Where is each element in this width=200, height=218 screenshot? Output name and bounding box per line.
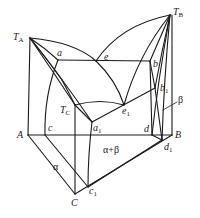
label-d: d — [144, 123, 150, 134]
label-A: A — [16, 129, 24, 140]
line-TC-a1 — [75, 105, 92, 122]
base-AC — [28, 135, 75, 194]
line-TB-d — [152, 15, 170, 135]
label-b1: b1 — [160, 82, 169, 95]
label-d1: d1 — [164, 141, 173, 154]
base-d-d1 — [152, 135, 162, 140]
solidus-arc-left — [62, 80, 75, 105]
label-a1: a1 — [93, 122, 102, 135]
label-TC: TC — [60, 104, 71, 117]
line-TA-TC-1 — [30, 38, 75, 105]
edge-A-vertical — [28, 38, 30, 135]
label-TB: TB — [173, 6, 184, 19]
label-e1: e1 — [122, 105, 130, 118]
label-beta: β — [178, 94, 183, 105]
label-a: a — [57, 47, 62, 58]
label-c: c — [48, 122, 53, 133]
base-c-c1 — [45, 135, 88, 187]
label-TA: TA — [13, 31, 24, 44]
label-c1: c1 — [89, 185, 97, 198]
ternary-phase-diagram: TA TB TC a e b b1 e1 a1 A B C c d d1 c1 … — [0, 0, 200, 218]
label-C: C — [71, 197, 78, 208]
label-alpha-beta: α+β — [103, 144, 119, 155]
label-e: e — [104, 51, 109, 62]
base-d1-c1 — [88, 140, 162, 187]
beta-pointer — [163, 102, 177, 110]
label-alpha: α — [53, 161, 59, 172]
line-a1-c1 — [88, 122, 92, 187]
line-e-e1 — [96, 61, 124, 105]
line-TC-e1 — [75, 102, 124, 106]
line-b1-d1 — [155, 88, 162, 140]
label-b: b — [153, 58, 158, 69]
label-B: B — [175, 129, 181, 140]
